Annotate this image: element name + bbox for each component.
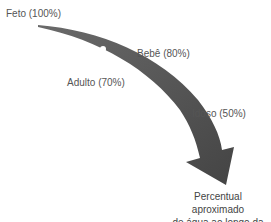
label-feto: Feto (100%)	[6, 9, 61, 19]
dot-idoso	[167, 110, 173, 116]
arrow-shape	[38, 25, 234, 185]
diagram-caption: Percentual aproximado de água ao longo d…	[168, 190, 268, 222]
dot-feto	[100, 46, 106, 52]
caption-line-1: Percentual aproximado	[168, 190, 268, 216]
label-adulto: Adulto (70%)	[67, 78, 125, 88]
diagram-canvas: Feto (100%) Bebê (80%) Adulto (70%) Idos…	[0, 0, 271, 222]
label-bebe: Bebê (80%)	[137, 49, 190, 59]
caption-line-2: de água ao longo da vida	[168, 216, 268, 222]
label-idoso: Idoso (50%)	[192, 109, 246, 119]
dot-bebe	[140, 76, 146, 82]
